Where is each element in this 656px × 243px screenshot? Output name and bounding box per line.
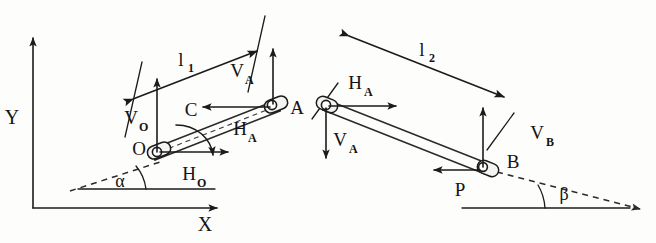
- y-axis-label: Y: [5, 106, 19, 128]
- beta-arc: [538, 185, 545, 208]
- l1-label-base: l: [178, 49, 183, 70]
- force-HO-label: H O: [182, 163, 206, 189]
- force-VA-right-label: V A: [333, 129, 358, 155]
- force-VA-left-label-subscript: A: [245, 73, 254, 87]
- force-VA-right-label-subscript: A: [349, 142, 358, 156]
- left-free-body-group: α l 1 O: [70, 16, 304, 191]
- force-HA-left-label-base: H: [233, 118, 247, 139]
- l2-label-subscript: 2: [429, 51, 435, 65]
- x-axis-label: X: [198, 213, 213, 235]
- point-B-label: B: [507, 151, 520, 172]
- force-P-label: P: [455, 179, 466, 200]
- force-HA-left-label: H A: [233, 118, 257, 144]
- l1-dimension-label: l 1: [178, 49, 194, 74]
- l1-label-subscript: 1: [188, 61, 194, 75]
- force-VA-left-label-base: V: [230, 60, 244, 81]
- moment-C-arc: [176, 125, 213, 155]
- l2-witness-line-B: [487, 113, 514, 150]
- l2-label-base: l: [419, 39, 424, 60]
- joint-B: [475, 158, 500, 178]
- joint-A-left: [262, 94, 289, 115]
- force-VO-label-subscript: O: [139, 120, 148, 134]
- force-VO-label-base: V: [124, 107, 138, 128]
- bar-AB-lower-edge: [323, 110, 485, 174]
- beta-angle-label: β: [559, 184, 568, 204]
- force-HO-label-base: H: [182, 163, 196, 184]
- force-HA-right-label-subscript: A: [364, 85, 373, 99]
- force-HA-right-label: H A: [348, 72, 373, 98]
- joint-O: [145, 140, 172, 161]
- l2-dimension-label: l 2: [419, 39, 435, 64]
- point-O-label: O: [132, 138, 146, 159]
- force-HA-left-label-subscript: A: [248, 131, 257, 145]
- alpha-angle-label: α: [115, 171, 125, 191]
- force-VB-label-base: V: [530, 122, 544, 143]
- free-body-diagram-figure: Y X α l 1: [0, 0, 656, 243]
- diagram-canvas: Y X α l 1: [0, 0, 656, 243]
- moment-C-label: C: [185, 99, 198, 120]
- force-VB-label: V B: [530, 122, 554, 148]
- force-VA-left-label: V A: [230, 60, 254, 86]
- force-HA-right-label-base: H: [348, 72, 362, 93]
- force-HO-label-subscript: O: [197, 176, 206, 190]
- point-A-label-left: A: [290, 97, 304, 118]
- right-free-body-group: β l 2 B: [312, 36, 640, 209]
- force-VA-right-label-base: V: [333, 129, 347, 150]
- force-VO-label: V O: [124, 107, 148, 133]
- joint-A-left-pin: [267, 100, 276, 109]
- force-VB-label-subscript: B: [546, 135, 554, 149]
